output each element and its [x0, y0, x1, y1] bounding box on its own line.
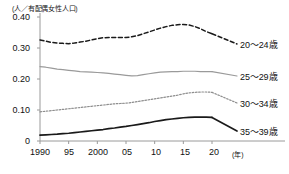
legend-connector-1 — [212, 72, 237, 76]
chart-plot-area — [0, 0, 289, 174]
chart-container: (人／有配偶女性人口) 0.40 0.30 0.20 0.10 0 1990 9… — [0, 0, 289, 174]
legend-connector-2 — [212, 92, 237, 103]
series-line-25-29- — [40, 67, 212, 76]
series-line-20-24- — [40, 24, 212, 43]
series-line-30-34- — [40, 92, 212, 112]
series-line-35-39- — [40, 117, 212, 135]
legend-connector-0 — [212, 34, 237, 44]
legend-connector-3 — [212, 117, 237, 131]
